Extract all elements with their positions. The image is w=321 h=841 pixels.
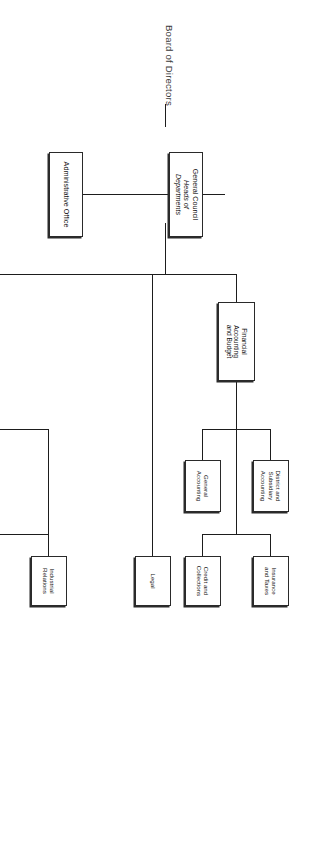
node-general-accounting[interactable]: General Accounting <box>185 460 221 512</box>
connector-title-to-admin <box>165 104 166 127</box>
node-label: Financial Accounting and Budget <box>225 325 248 359</box>
connector-to-legal <box>152 534 153 556</box>
node-sublabel: Heads of Departments <box>173 169 190 221</box>
node-label: General Council <box>190 169 198 221</box>
connector-engineering-bus <box>0 429 49 430</box>
page-title: Board of Directors <box>164 25 175 106</box>
node-insurance-and-taxes[interactable]: Insurance and Taxes <box>253 556 289 606</box>
node-administrative-office[interactable]: Administrative Office <box>49 152 83 237</box>
node-label: District and Subsidiary Accounting <box>260 471 282 502</box>
chart-connectors-and-nodes: Advisory Council Officers Administrative… <box>0 0 321 841</box>
org-chart-canvas: Board of Directors <box>0 0 321 841</box>
node-label: Credit and Collections <box>196 566 211 596</box>
connector-bus-top-stub <box>236 274 237 303</box>
connector-procurement-bus <box>0 534 49 535</box>
node-district-and-subsidiary-accounting[interactable]: District and Subsidiary Accounting <box>253 460 289 512</box>
connector-to-insurance <box>270 534 271 556</box>
connector-credit-insurance-bus <box>203 534 271 535</box>
node-label: Administrative Office <box>62 162 70 228</box>
node-label: Legal <box>149 573 156 588</box>
connector-financial-to-credit-line <box>236 381 237 534</box>
connector-to-credit <box>202 534 203 556</box>
connector-eng-to-industrial-top <box>48 429 49 534</box>
connector-financial-bus <box>203 429 271 430</box>
node-label: General Accounting <box>196 471 211 502</box>
node-legal[interactable]: Legal <box>135 556 171 606</box>
node-credit-and-collections[interactable]: Credit and Collections <box>185 556 221 606</box>
connector-division-bus <box>0 274 237 275</box>
connector-bus-to-legal <box>152 274 153 534</box>
connector-to-industrial <box>48 534 49 556</box>
node-financial-accounting-and-budget[interactable]: Financial Accounting and Budget <box>218 302 255 381</box>
connector-exec-spine-lower <box>82 194 166 195</box>
node-label: Industrial Relations <box>42 568 57 594</box>
node-industrial-relations[interactable]: Industrial Relations <box>31 556 67 606</box>
connector-admin-out <box>165 223 166 274</box>
connector-financial-to-district <box>270 429 271 460</box>
connector-financial-to-general-acct <box>202 429 203 460</box>
node-general-council[interactable]: General Council Heads of Departments <box>169 152 203 237</box>
node-label: Insurance and Taxes <box>264 567 279 595</box>
